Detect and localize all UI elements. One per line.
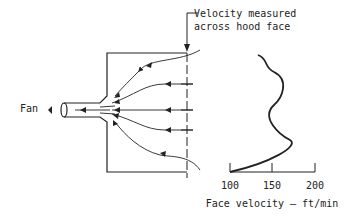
annotation-line-1: Velocity measured	[194, 8, 296, 19]
hood-outline	[61, 53, 187, 172]
x-tick-200: 200	[306, 180, 324, 191]
x-tick-150: 150	[263, 180, 281, 191]
hood-diagram: Fan Velocity measured across hood face 1…	[0, 0, 349, 217]
fan-label: Fan	[20, 103, 38, 114]
x-tick-100: 100	[221, 180, 239, 191]
flow-arrowheads	[80, 62, 171, 157]
velocity-profile-curve	[230, 55, 292, 172]
flow-streamlines	[75, 50, 200, 170]
annotation-line-2: across hood face	[194, 21, 290, 32]
velocity-axis	[230, 163, 315, 172]
annotation-arrowhead	[184, 44, 190, 52]
fan-arrow-icon	[48, 106, 52, 114]
x-axis-label: Face velocity — ft/min	[206, 198, 338, 209]
